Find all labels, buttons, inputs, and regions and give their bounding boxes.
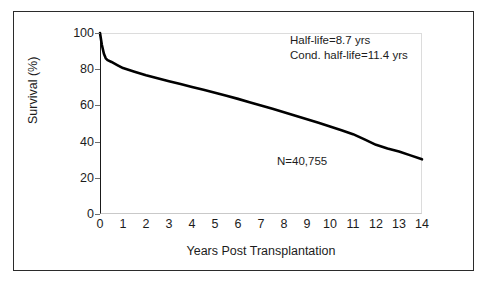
- x-axis-tick-labels: 01234567891011121314: [100, 218, 422, 236]
- y-tick-label-60: 60: [48, 99, 94, 112]
- annotation-half-life-line-2: Cond. half-life=11.4 yrs: [290, 48, 408, 63]
- annotation-half-life: Half-life=8.7 yrs Cond. half-life=11.4 y…: [290, 33, 408, 63]
- y-tick-label-100: 100: [48, 27, 94, 40]
- annotation-sample-size: N=40,755: [277, 155, 327, 167]
- y-tick-label-80: 80: [48, 63, 94, 76]
- y-axis-tick-labels: 020406080100: [48, 33, 94, 214]
- y-axis-tickmarks: [100, 33, 101, 214]
- y-tick-mark-20: [95, 178, 100, 179]
- y-tick-mark-100: [95, 33, 100, 34]
- y-axis-title: Survival (%): [26, 57, 40, 124]
- x-axis-title: Years Post Transplantation: [100, 244, 422, 258]
- y-tick-mark-60: [95, 105, 100, 106]
- y-tick-label-40: 40: [48, 135, 94, 148]
- y-tick-label-20: 20: [48, 172, 94, 185]
- annotation-half-life-line-1: Half-life=8.7 yrs: [290, 33, 408, 48]
- x-tick-label-14: 14: [407, 218, 437, 231]
- survival-chart-figure: 020406080100 01234567891011121314 Years …: [0, 0, 489, 286]
- y-tick-mark-80: [95, 69, 100, 70]
- y-tick-mark-0: [95, 214, 100, 215]
- y-tick-mark-40: [95, 142, 100, 143]
